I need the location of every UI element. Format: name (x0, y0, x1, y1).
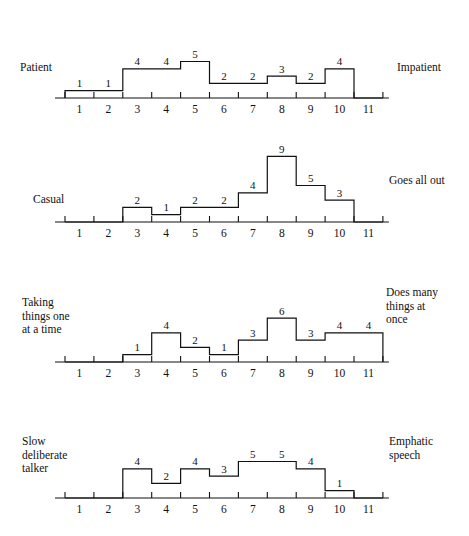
x-axis-tick-label: 10 (334, 227, 346, 239)
bar-value-label: 2 (250, 70, 256, 82)
x-axis-tick-label: 3 (134, 227, 140, 239)
histogram-row-2: Casual Goes all out 12345678910112122495… (0, 132, 469, 268)
bar-value-label: 4 (135, 55, 141, 67)
bar-value-label: 3 (308, 327, 314, 339)
x-axis-tick-label: 10 (334, 367, 346, 379)
x-axis-tick-label: 10 (334, 503, 346, 515)
bar-value-label: 5 (279, 448, 285, 460)
x-axis-tick-label: 11 (363, 367, 374, 379)
x-axis-tick-label: 2 (105, 503, 111, 515)
bar-value-label: 1 (337, 477, 343, 489)
bar-value-label: 1 (135, 341, 141, 353)
x-axis-tick-label: 3 (134, 503, 140, 515)
x-axis-tick-label: 9 (308, 367, 314, 379)
bar-value-label: 2 (163, 470, 169, 482)
bar-value-label: 4 (337, 55, 343, 67)
bar-value-label: 5 (192, 48, 198, 60)
x-axis-tick-label: 9 (308, 503, 314, 515)
x-axis-tick-label: 11 (363, 103, 374, 115)
histogram-row-3: Taking things one at a time Does many th… (0, 268, 469, 404)
x-axis-tick-label: 2 (105, 227, 111, 239)
bar-value-label: 6 (279, 305, 285, 317)
bar-value-label: 2 (308, 70, 314, 82)
x-axis-tick-label: 4 (163, 503, 169, 515)
x-axis-tick-label: 7 (250, 367, 256, 379)
bar-value-label: 1 (106, 77, 112, 89)
bar-value-label: 3 (221, 463, 227, 475)
bar-value-label: 2 (221, 70, 227, 82)
histogram-plot-2: 123456789101121224953 (55, 132, 410, 244)
bar-value-label: 9 (279, 143, 285, 155)
bar-value-label: 4 (308, 455, 314, 467)
histogram-plot-4: 123456789101142435541 (55, 414, 410, 520)
x-axis-tick-label: 2 (105, 367, 111, 379)
x-axis-tick-label: 3 (134, 367, 140, 379)
x-axis-tick-label: 9 (308, 103, 314, 115)
x-axis-tick-label: 6 (221, 103, 227, 115)
x-axis-tick-label: 6 (221, 227, 227, 239)
x-axis-tick-label: 3 (134, 103, 140, 115)
x-axis-tick-label: 8 (279, 103, 285, 115)
x-axis-tick-label: 1 (77, 367, 83, 379)
bar-value-label: 4 (135, 455, 141, 467)
x-axis-tick-label: 5 (192, 367, 198, 379)
histogram-row-1: Patient Impatient 1234567891011114452232… (0, 0, 469, 132)
x-axis-tick-label: 1 (77, 227, 83, 239)
bar-value-label: 3 (250, 327, 256, 339)
bar-value-label: 4 (163, 55, 169, 67)
x-axis-tick-label: 8 (279, 367, 285, 379)
bar-value-label: 2 (192, 334, 198, 346)
bar-value-label: 5 (250, 448, 256, 460)
bar-value-label: 1 (221, 341, 227, 353)
bar-value-label: 2 (135, 194, 141, 206)
histogram-plot-1: 12345678910111144522324 (55, 20, 410, 120)
bar-value-label: 1 (77, 77, 83, 89)
bar-value-label: 4 (337, 319, 343, 331)
x-axis-tick-label: 1 (77, 103, 83, 115)
histogram-outline (65, 318, 383, 362)
histogram-plot-3: 1234567891011142136344 (55, 278, 410, 384)
x-axis-tick-label: 4 (163, 103, 169, 115)
x-axis-tick-label: 2 (105, 103, 111, 115)
bar-value-label: 5 (308, 172, 314, 184)
bar-value-label: 2 (221, 194, 227, 206)
histogram-outline (65, 156, 383, 222)
x-axis-tick-label: 8 (279, 227, 285, 239)
histogram-row-4: Slow deliberate talker Emphatic speech 1… (0, 404, 469, 536)
bar-value-label: 1 (163, 201, 169, 213)
x-axis-tick-label: 6 (221, 367, 227, 379)
x-axis-tick-label: 6 (221, 503, 227, 515)
bar-value-label: 4 (366, 319, 372, 331)
x-axis-tick-label: 11 (363, 503, 374, 515)
bar-value-label: 4 (163, 319, 169, 331)
x-axis-tick-label: 5 (192, 503, 198, 515)
x-axis-tick-label: 9 (308, 227, 314, 239)
bar-value-label: 4 (250, 179, 256, 191)
x-axis-tick-label: 4 (163, 367, 169, 379)
x-axis-tick-label: 5 (192, 103, 198, 115)
x-axis-tick-label: 7 (250, 103, 256, 115)
bar-value-label: 4 (192, 455, 198, 467)
bar-value-label: 3 (279, 63, 285, 75)
bar-value-label: 2 (192, 194, 198, 206)
x-axis-tick-label: 7 (250, 503, 256, 515)
x-axis-tick-label: 10 (334, 103, 346, 115)
x-axis-tick-label: 7 (250, 227, 256, 239)
x-axis-tick-label: 8 (279, 503, 285, 515)
x-axis-tick-label: 4 (163, 227, 169, 239)
x-axis-tick-label: 11 (363, 227, 374, 239)
x-axis-tick-label: 1 (77, 503, 83, 515)
x-axis-tick-label: 5 (192, 227, 198, 239)
bar-value-label: 3 (337, 187, 343, 199)
